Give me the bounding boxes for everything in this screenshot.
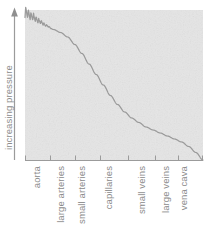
up-arrow-icon (11, 8, 18, 17)
x-tick-label-large-veins: large veins (160, 166, 171, 213)
y-axis-label: increasing pressure (3, 65, 14, 150)
x-tick-label-small-arteries: small arteries (76, 166, 87, 224)
x-tick-label-small-veins: small veins (136, 166, 147, 214)
x-tick-label-vena-cava: vena cava (178, 165, 189, 210)
pressure-chart: increasing pressure aorta large arteries… (0, 0, 211, 238)
x-tick-label-large-arteries: large arteries (55, 166, 66, 223)
x-tick-label-capillaries: capillaries (103, 166, 114, 209)
plot-area-texture (25, 10, 203, 160)
x-tick-label-aorta: aorta (31, 165, 42, 188)
figure-container: increasing pressure aorta large arteries… (0, 0, 211, 238)
